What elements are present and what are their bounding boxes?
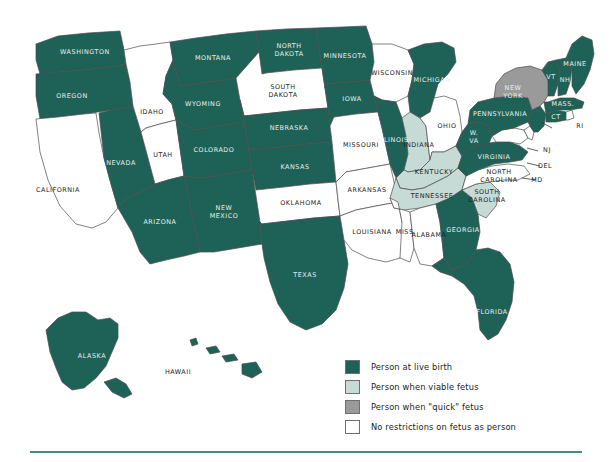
state-ri[interactable] — [566, 110, 574, 120]
leader-line-nj — [527, 148, 538, 151]
map-legend: Person at live birthPerson when viable f… — [345, 357, 575, 437]
state-co[interactable] — [176, 120, 252, 178]
state-me[interactable] — [566, 36, 594, 94]
state-nd[interactable] — [256, 28, 322, 74]
legend-label-none: No restrictions on fetus as person — [371, 422, 516, 432]
legend-swatch-viable-fetus — [345, 380, 360, 394]
leader-line-md — [522, 178, 536, 180]
footer-rule — [30, 451, 582, 453]
state-ak[interactable] — [46, 312, 132, 398]
us-map-figure: WASHINGTONOREGONCALIFORNIANEVADAIDAHOUTA… — [0, 0, 612, 462]
state-hi[interactable] — [190, 338, 262, 378]
state-wi[interactable] — [370, 44, 414, 102]
state-label-hi: HAWAII — [165, 368, 191, 376]
state-fl[interactable] — [432, 248, 514, 340]
state-mn[interactable] — [316, 26, 374, 88]
legend-label-viable-fetus: Person when viable fetus — [371, 382, 479, 392]
leader-line-del — [527, 163, 540, 166]
legend-label-quick-fetus: Person when "quick" fetus — [371, 402, 484, 412]
state-label-nj: NJ — [543, 146, 551, 154]
legend-swatch-none — [345, 420, 360, 434]
legend-label-live-birth: Person at live birth — [371, 362, 452, 372]
legend-item-live-birth[interactable]: Person at live birth — [345, 357, 575, 377]
legend-swatch-live-birth — [345, 360, 360, 374]
states-layer — [36, 26, 594, 398]
legend-item-quick-fetus[interactable]: Person when "quick" fetus — [345, 397, 575, 417]
legend-item-viable-fetus[interactable]: Person when viable fetus — [345, 377, 575, 397]
state-label-ri: RI — [576, 122, 583, 130]
legend-swatch-quick-fetus — [345, 400, 360, 414]
state-tx[interactable] — [260, 216, 348, 330]
legend-item-none[interactable]: No restrictions on fetus as person — [345, 417, 575, 437]
